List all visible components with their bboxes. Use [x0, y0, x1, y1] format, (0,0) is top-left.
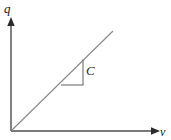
x-axis-arrowhead — [151, 127, 160, 134]
slope-label: C — [86, 64, 95, 77]
figure-container: q v C — [0, 0, 171, 140]
y-axis-arrowhead — [7, 17, 14, 26]
x-axis-label: v — [160, 126, 165, 138]
y-axis-label: q — [4, 2, 11, 15]
data-line — [12, 31, 114, 131]
